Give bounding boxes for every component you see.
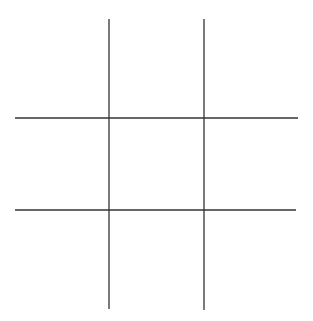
- cell-top-left[interactable]: [15, 19, 109, 118]
- cell-middle-right[interactable]: [204, 118, 298, 210]
- tic-tac-toe-board: [0, 0, 313, 321]
- cell-bottom-right[interactable]: [204, 210, 298, 310]
- cell-middle-left[interactable]: [15, 118, 109, 210]
- board-canvas: [0, 0, 313, 321]
- cell-hit-layer: [15, 19, 298, 310]
- cell-top-right[interactable]: [204, 19, 298, 118]
- cell-middle-center[interactable]: [109, 118, 204, 210]
- cell-top-center[interactable]: [109, 19, 204, 118]
- cell-bottom-left[interactable]: [15, 210, 109, 310]
- cell-bottom-center[interactable]: [109, 210, 204, 310]
